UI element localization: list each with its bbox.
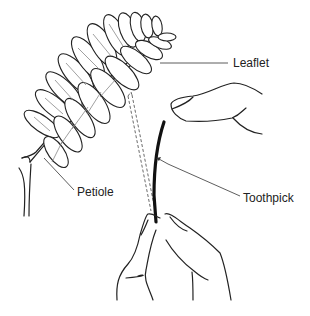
compound-leaf-drawing: Leaflet Petiole Toothpick: [0, 0, 310, 316]
illustration: Leaflet Petiole Toothpick: [0, 0, 310, 316]
label-petiole: Petiole: [77, 185, 114, 199]
toothpick-leader-line: [159, 159, 240, 196]
bottom-hand: [117, 214, 231, 300]
label-toothpick: Toothpick: [243, 191, 295, 205]
label-leaflet: Leaflet: [233, 56, 270, 70]
toothpick: [154, 122, 164, 222]
top-finger: [171, 83, 262, 134]
toothpick-dashed-outline: [128, 92, 155, 211]
